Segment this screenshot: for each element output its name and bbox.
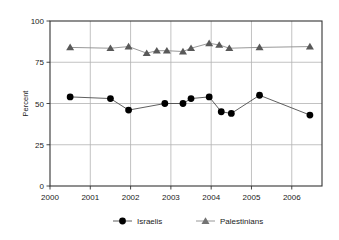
y-axis-title: Percent	[21, 90, 30, 117]
x-axis-tick-label: 2003	[162, 193, 180, 202]
data-point-circle	[256, 92, 263, 99]
y-axis-tick-label: 100	[31, 17, 45, 26]
y-axis-tick-label: 0	[40, 182, 45, 191]
x-axis-tick-label: 2001	[81, 193, 99, 202]
y-axis-tick-label: 75	[35, 58, 44, 67]
chart-container: 0255075100 2000200120022003200420052006 …	[0, 0, 339, 240]
percent-line-chart: 0255075100 2000200120022003200420052006 …	[0, 0, 339, 240]
y-axis-tick-label: 50	[35, 100, 44, 109]
legend-label: Palestinians	[220, 217, 263, 226]
x-axis-tick-label: 2000	[41, 193, 59, 202]
x-axis-tick-label: 2004	[202, 193, 220, 202]
data-point-circle	[188, 95, 195, 102]
data-point-circle	[119, 218, 126, 225]
x-axis-tick-label: 2006	[283, 193, 301, 202]
data-point-circle	[107, 95, 114, 102]
chart-background	[0, 0, 339, 240]
x-axis-tick-label: 2005	[243, 193, 261, 202]
data-point-circle	[125, 107, 132, 114]
data-point-circle	[307, 112, 314, 119]
data-point-circle	[206, 94, 213, 101]
legend-label: Israelis	[137, 217, 162, 226]
data-point-circle	[67, 94, 74, 101]
data-point-circle	[180, 100, 187, 107]
y-axis-title-group: Percent	[21, 90, 30, 117]
y-axis-tick-label: 25	[35, 141, 44, 150]
data-point-circle	[228, 110, 235, 117]
x-axis-tick-label: 2002	[122, 193, 140, 202]
data-point-circle	[161, 100, 168, 107]
data-point-circle	[218, 108, 225, 115]
